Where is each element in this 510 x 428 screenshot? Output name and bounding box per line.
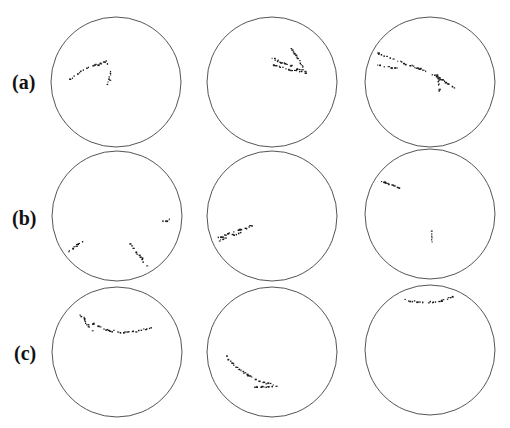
stereographic-projection-grid bbox=[0, 0, 510, 428]
projection-circle bbox=[207, 151, 337, 281]
panel-b2 bbox=[207, 151, 337, 281]
projection-circle bbox=[207, 17, 337, 147]
projection-circle bbox=[207, 287, 337, 417]
panel-a2 bbox=[207, 17, 337, 147]
projection-circle bbox=[365, 285, 495, 415]
panel-b1 bbox=[52, 151, 182, 281]
panel-b3 bbox=[365, 149, 495, 279]
panel-c3 bbox=[365, 285, 495, 415]
projection-circle bbox=[365, 149, 495, 279]
projection-circle bbox=[51, 17, 181, 147]
projection-circle bbox=[52, 287, 182, 417]
projection-circle bbox=[52, 151, 182, 281]
panel-a1 bbox=[51, 17, 181, 147]
panel-a3 bbox=[365, 17, 495, 147]
panel-c2 bbox=[207, 287, 337, 417]
projection-circle bbox=[365, 17, 495, 147]
panel-c1 bbox=[52, 287, 182, 417]
